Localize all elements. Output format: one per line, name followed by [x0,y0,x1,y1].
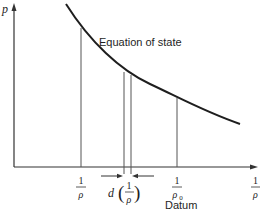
svg-text:1: 1 [127,180,132,191]
arrow-right-icon [117,174,123,178]
svg-text:ρ: ρ [78,189,84,200]
y-axis: p [1,2,17,167]
x-axis-label: 1 ρ [251,175,260,200]
arrow-left-icon [132,174,138,178]
datum-marker-label: 1 ρ 0 Datum [165,175,197,211]
svg-text:ρ: ρ [126,194,132,205]
svg-text:1: 1 [253,175,258,186]
state-marker-label: 1 ρ [76,175,86,200]
close-paren: ) [134,182,140,204]
svg-text:1: 1 [79,175,84,186]
svg-text:d: d [108,186,115,200]
svg-text:ρ: ρ [252,189,258,200]
datum-caption: Datum [165,199,197,211]
y-axis-label: p [1,2,8,16]
open-paren: ( [118,182,124,204]
x-axis-arrow-icon [250,165,258,170]
increment-arrows [101,174,154,178]
svg-text:1: 1 [175,175,180,186]
increment-marker-label: d ( 1 ρ ) [108,180,140,205]
pv-diagram: p 1 ρ Equation of state 1 ρ d ( 1 ρ ) [0,0,261,211]
y-axis-arrow-icon [12,3,17,11]
equation-of-state-curve [66,4,240,124]
curve-label: Equation of state [99,36,182,48]
